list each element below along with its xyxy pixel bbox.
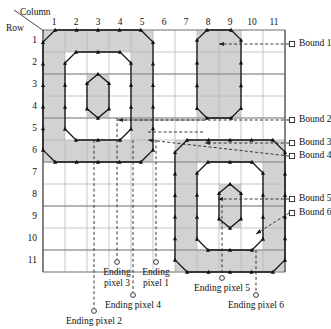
ending-pixel-4-label: Ending pixel 4 — [105, 300, 161, 311]
row-tick-11: 11 — [28, 256, 37, 266]
column-tick-5: 5 — [140, 18, 145, 28]
column-tick-2: 2 — [74, 18, 79, 28]
column-tick-4: 4 — [118, 18, 123, 28]
bound-4-label: Bound 4 — [299, 151, 331, 161]
row-tick-7: 7 — [32, 168, 37, 178]
column-tick-8: 8 — [206, 18, 211, 28]
row-tick-2: 2 — [32, 58, 37, 68]
row-tick-1: 1 — [32, 36, 37, 46]
axis-label-row: Row — [6, 24, 24, 34]
row-tick-6: 6 — [32, 146, 37, 156]
axis-label-column: Column — [20, 8, 51, 18]
column-tick-11: 11 — [269, 18, 278, 28]
row-tick-4: 4 — [32, 102, 37, 112]
row-tick-10: 10 — [28, 234, 38, 244]
region-fills — [43, 30, 285, 272]
ending-pixel-5-label: Ending pixel 5 — [194, 283, 250, 294]
bound-2-label: Bound 2 — [299, 115, 331, 125]
column-tick-3: 3 — [96, 18, 101, 28]
column-tick-1: 1 — [52, 18, 57, 28]
ending-pixel-1-label: Endingpixel 1 — [142, 267, 169, 289]
column-tick-9: 9 — [228, 18, 233, 28]
bound-1-label: Bound 1 — [299, 39, 331, 49]
column-tick-6: 6 — [162, 18, 167, 28]
bound-6-label: Bound 6 — [299, 208, 331, 218]
ending-pixel-3-label: Endingpixel 3 — [103, 267, 130, 289]
ending-pixel-2-label: Ending pixel 2 — [66, 316, 122, 327]
ending-pixel-6-label: Ending pixel 6 — [228, 300, 284, 311]
column-tick-10: 10 — [247, 18, 257, 28]
row-tick-8: 8 — [32, 190, 37, 200]
bound-5-label: Bound 5 — [299, 194, 331, 204]
row-tick-9: 9 — [32, 212, 37, 222]
row-tick-5: 5 — [32, 124, 37, 134]
bound-3-label: Bound 3 — [299, 138, 331, 148]
column-tick-7: 7 — [184, 18, 189, 28]
row-tick-3: 3 — [32, 80, 37, 90]
